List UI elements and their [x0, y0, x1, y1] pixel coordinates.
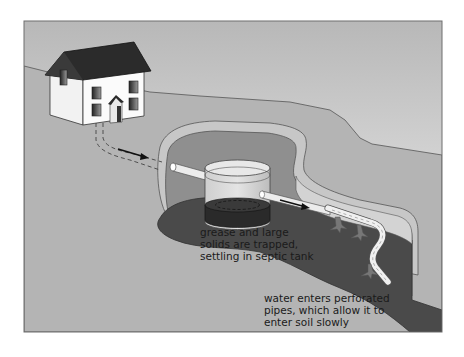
annotation-pipes-line: water enters perforated	[264, 292, 390, 304]
annotation-tank-line: settling in septic tank	[200, 250, 315, 262]
annotation-pipes-line: enter soil slowly	[264, 316, 349, 328]
annotation-tank-line: grease and large	[200, 226, 289, 238]
septic-system-diagram: grease and large solids are trapped, set…	[0, 0, 464, 357]
window	[129, 81, 138, 93]
annotation-tank-line: solids are trapped,	[200, 238, 298, 250]
annotation-pipes-line: pipes, which allow it to	[264, 304, 384, 316]
door	[117, 106, 121, 122]
window	[129, 98, 138, 110]
window	[60, 70, 67, 85]
window	[92, 87, 101, 99]
sludge-layer	[205, 198, 270, 228]
window	[92, 104, 101, 116]
